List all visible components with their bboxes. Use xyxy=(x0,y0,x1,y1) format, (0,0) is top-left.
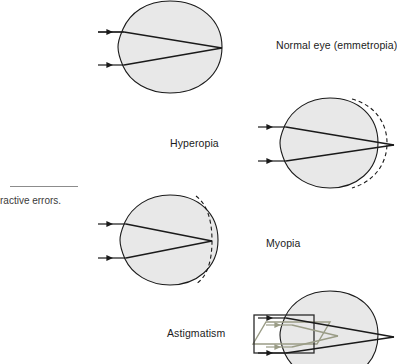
figure-caption: ractive errors. xyxy=(0,195,61,206)
label-normal-eye: Normal eye (emmetropia) xyxy=(276,39,397,51)
label-myopia: Myopia xyxy=(266,237,300,249)
caption-divider-rule xyxy=(10,186,78,187)
label-hyperopia: Hyperopia xyxy=(170,137,219,149)
label-astigmatism: Astigmatism xyxy=(167,327,225,339)
